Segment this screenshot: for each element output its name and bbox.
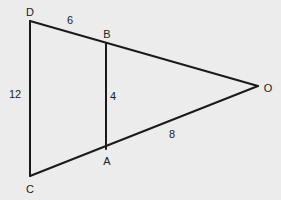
length-label-DB: 6 (67, 15, 73, 26)
vertex-label-D: D (26, 7, 34, 18)
segment-CO (30, 86, 258, 176)
length-label-BA: 4 (110, 91, 116, 102)
similar-triangles-diagram: D B O A C 6 12 4 8 (0, 0, 281, 200)
diagram-canvas (0, 0, 281, 200)
vertex-label-C: C (26, 184, 34, 195)
length-label-AO: 8 (169, 129, 175, 140)
length-label-DC: 12 (9, 89, 21, 100)
vertex-label-B: B (103, 29, 110, 40)
segment-DO (30, 21, 258, 86)
vertex-label-A: A (103, 156, 110, 167)
vertex-label-O: O (264, 83, 273, 94)
